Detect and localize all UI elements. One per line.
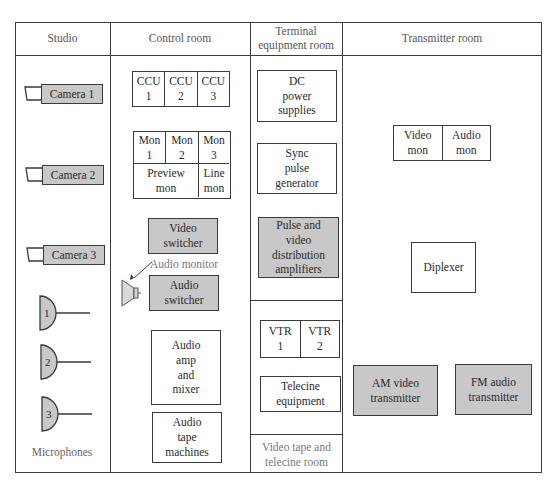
preview-monitor: Preview mon: [134, 164, 199, 197]
vtr-2: VTR 2: [301, 321, 340, 357]
header-studio: Studio: [15, 22, 110, 55]
header-divider: [15, 55, 542, 56]
dc-power-supplies: DC power supplies: [257, 70, 337, 122]
header-transmitter-room: Transmitter room: [342, 22, 542, 55]
line-monitor: Line mon: [199, 164, 229, 197]
divider-control-terminal: [250, 22, 251, 473]
audio-monitor-label: Audio monitor: [150, 258, 240, 270]
vtr-room-label: Video tape and telecine room: [251, 440, 342, 470]
video-switcher: Video switcher: [148, 218, 218, 254]
ccu-1: CCU 1: [133, 72, 165, 106]
audio-amp-mixer: Audio amp and mixer: [151, 330, 221, 405]
vtr-group: VTR 1 VTR 2: [260, 320, 340, 358]
camera-3: Camera 3: [43, 245, 105, 265]
mon-2: Mon 2: [166, 132, 199, 164]
sync-pulse-generator: Sync pulse generator: [257, 143, 337, 194]
transmitter-monitor-group: Video mon Audio mon: [393, 125, 491, 161]
telecine-equipment: Telecine equipment: [260, 376, 341, 412]
video-monitor: Video mon: [394, 126, 443, 160]
ccu-group: CCU 1 CCU 2 CCU 3: [132, 71, 230, 107]
header-terminal-room: Terminal equipment room: [250, 22, 342, 55]
diplexer: Diplexer: [411, 242, 476, 293]
am-video-transmitter: AM video transmitter: [353, 365, 438, 416]
mon-1: Mon 1: [134, 132, 166, 164]
vtr-1: VTR 1: [261, 321, 301, 357]
audio-switcher: Audio switcher: [149, 275, 219, 311]
svg-text:2: 2: [45, 356, 51, 368]
camera-1: Camera 1: [41, 84, 103, 104]
divider-terminal-transmitter: [342, 22, 343, 473]
divider-terminal-vtr: [250, 300, 342, 301]
divider-vtr-label: [250, 434, 342, 435]
pulse-video-distribution-amplifiers: Pulse and video distribution amplifiers: [258, 217, 339, 278]
fm-audio-transmitter: FM audio transmitter: [455, 364, 532, 415]
header-control-room: Control room: [110, 22, 250, 55]
microphone-2-icon: 2: [39, 343, 99, 381]
audio-tape-machines: Audio tape machines: [152, 412, 222, 463]
microphone-3-icon: 3: [40, 395, 100, 433]
camera-2: Camera 2: [42, 165, 104, 185]
mon-3: Mon 3: [199, 132, 229, 164]
microphones-label: Microphones: [18, 446, 106, 458]
audio-monitor: Audio mon: [443, 126, 491, 160]
ccu-3: CCU 3: [198, 72, 229, 106]
microphone-1-icon: 1: [38, 294, 98, 332]
svg-text:3: 3: [46, 408, 52, 420]
ccu-2: CCU 2: [165, 72, 197, 106]
svg-text:1: 1: [44, 307, 50, 319]
monitor-group: Mon 1 Mon 2 Mon 3 Preview mon Line mon: [133, 131, 231, 199]
divider-studio-control: [110, 22, 111, 473]
